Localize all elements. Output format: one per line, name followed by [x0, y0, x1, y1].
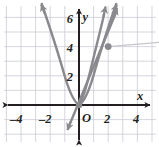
- intersection-point: [105, 43, 112, 50]
- y-tick-label-6: 6: [67, 12, 74, 26]
- graph-canvas: –4 –2 2 4 2 4 6 O x y: [0, 0, 159, 147]
- y-axis-label: y: [81, 10, 89, 24]
- x-axis-label: x: [136, 89, 143, 103]
- origin-point: [76, 102, 82, 108]
- coordinate-graph-figure: –4 –2 2 4 2 4 6 O x y: [0, 0, 159, 147]
- x-tick-label-2: 2: [103, 112, 110, 126]
- y-tick-label-4: 4: [66, 41, 73, 55]
- y-tick-label-2: 2: [66, 70, 73, 84]
- origin-label: O: [82, 111, 91, 125]
- x-tick-label--2: –2: [38, 112, 52, 126]
- x-tick-label-4: 4: [132, 112, 139, 126]
- x-tick-label--4: –4: [9, 112, 23, 126]
